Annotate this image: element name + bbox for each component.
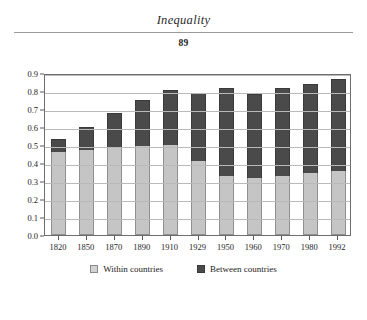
y-axis-tick-mark: [40, 199, 44, 200]
bar-segment-within: [191, 161, 206, 235]
gridline: [45, 75, 350, 76]
x-axis-tick-mark: [198, 236, 199, 240]
y-axis-tick-mark: [40, 127, 44, 128]
y-axis-tick-mark: [40, 73, 44, 74]
bar-segment-within: [275, 176, 290, 235]
bar-segment-within: [219, 176, 234, 235]
x-axis-tick-mark: [337, 236, 338, 240]
bar-segment-within: [135, 146, 150, 234]
bars-layer: [45, 75, 350, 235]
y-axis-tick-label: 0.3: [12, 177, 38, 187]
y-axis-tick-mark: [40, 91, 44, 92]
y-axis-tick-label: 0.9: [12, 69, 38, 79]
bar-stack: [51, 139, 66, 234]
y-axis-tick-label: 0.7: [12, 105, 38, 115]
legend-item-within: Within countries: [90, 264, 163, 274]
y-axis-tick-label: 0.2: [12, 195, 38, 205]
x-axis-tick-label: 1950: [217, 242, 234, 252]
bar-segment-within: [247, 178, 262, 235]
x-axis-tick-mark: [225, 236, 226, 240]
bar-segment-between: [107, 113, 122, 148]
x-axis-tick-label: 1890: [133, 242, 150, 252]
gridline: [45, 219, 350, 220]
y-axis-tick-mark: [40, 145, 44, 146]
x-axis-tick-label: 1980: [301, 242, 318, 252]
x-axis-tick-label: 1929: [189, 242, 206, 252]
gridline: [45, 165, 350, 166]
x-axis-tick-label: 1870: [105, 242, 122, 252]
x-axis-tick-mark: [253, 236, 254, 240]
bar-segment-within: [79, 150, 94, 235]
x-axis-tick-mark: [58, 236, 59, 240]
x-axis-tick-mark: [309, 236, 310, 240]
x-axis-tick-mark: [281, 236, 282, 240]
y-axis-tick-label: 0.1: [12, 213, 38, 223]
y-axis-tick-label: 0.4: [12, 159, 38, 169]
bar-segment-between: [51, 139, 66, 152]
gridline: [45, 147, 350, 148]
bar-segment-between: [135, 100, 150, 146]
y-axis-tick-mark: [40, 235, 44, 236]
bar-segment-between: [275, 88, 290, 176]
y-axis-tick-mark: [40, 217, 44, 218]
x-axis-tick-mark: [142, 236, 143, 240]
gridline: [45, 129, 350, 130]
legend-label-between: Between countries: [210, 264, 277, 274]
y-axis-tick-mark: [40, 181, 44, 182]
bar-stack: [331, 79, 346, 235]
bar-segment-within: [163, 145, 178, 234]
plot-area: [44, 74, 351, 236]
bar-segment-between: [219, 88, 234, 176]
gridline: [45, 111, 350, 112]
y-axis-tick-label: 0.5: [12, 141, 38, 151]
x-axis-tick-label: 1970: [273, 242, 290, 252]
chart-legend: Within countries Between countries: [0, 264, 367, 274]
page-header: Inequality 89: [0, 0, 367, 48]
gridline: [45, 183, 350, 184]
x-axis-tick-label: 1910: [161, 242, 178, 252]
page-number: 89: [0, 38, 367, 48]
bar-segment-between: [163, 90, 178, 146]
x-axis-tick-label: 1960: [245, 242, 262, 252]
bar-segment-between: [191, 93, 206, 161]
gridline: [45, 93, 350, 94]
bar-segment-within: [331, 171, 346, 235]
x-axis-tick-label: 1850: [77, 242, 94, 252]
legend-label-within: Within countries: [103, 264, 163, 274]
header-rule: [14, 32, 353, 33]
legend-swatch-within-icon: [90, 265, 98, 273]
legend-swatch-between-icon: [197, 265, 205, 273]
x-axis-tick-label: 1820: [49, 242, 66, 252]
x-axis-tick-mark: [170, 236, 171, 240]
x-axis-tick-label: 1992: [329, 242, 346, 252]
bar-stack: [135, 100, 150, 234]
gridline: [45, 201, 350, 202]
stacked-bar-chart: 0.00.10.20.30.40.50.60.70.80.91820185018…: [0, 66, 367, 296]
y-axis-tick-label: 0.0: [12, 231, 38, 241]
x-axis-tick-mark: [114, 236, 115, 240]
y-axis-tick-label: 0.8: [12, 87, 38, 97]
y-axis-tick-mark: [40, 163, 44, 164]
legend-item-between: Between countries: [197, 264, 277, 274]
bar-segment-within: [107, 148, 122, 234]
y-axis-tick-mark: [40, 109, 44, 110]
bar-stack: [303, 84, 318, 234]
y-axis-tick-label: 0.6: [12, 123, 38, 133]
x-axis-tick-mark: [86, 236, 87, 240]
running-head: Inequality: [0, 14, 367, 27]
bar-stack: [107, 113, 122, 235]
